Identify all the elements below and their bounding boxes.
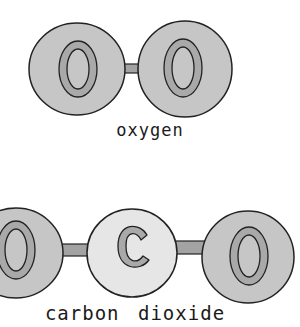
carbon-atom	[87, 209, 177, 297]
oxygen-atom-right	[202, 211, 294, 303]
oxygen-atom-left	[29, 23, 125, 115]
oxygen-atom-left	[0, 208, 63, 298]
carbon-dioxide-molecule	[0, 208, 294, 303]
oxygen-label: oxygen	[95, 120, 205, 140]
carbon-dioxide-label: carbon dioxide	[40, 302, 230, 324]
bond-left	[60, 244, 90, 256]
oxygen-atom-right	[138, 21, 232, 117]
molecule-diagram	[0, 0, 300, 327]
oxygen-molecule	[29, 21, 232, 117]
